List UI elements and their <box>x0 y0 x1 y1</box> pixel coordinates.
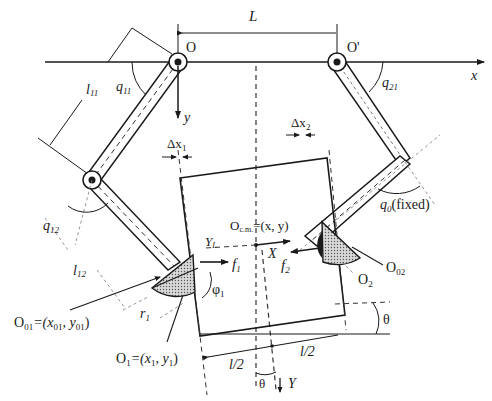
Y-label: Y <box>288 376 298 391</box>
object-X-axis <box>256 241 290 245</box>
robot-hand-diagram: x L q11 l11 q0(fixed) q21 <box>0 0 492 401</box>
left-finger-link-1 <box>86 58 184 184</box>
theta-arc-right <box>373 303 379 334</box>
object-y-axis-line <box>262 250 276 390</box>
grasped-object <box>178 150 346 395</box>
q21-label: q21 <box>382 75 398 92</box>
y-axis-label: y <box>182 110 191 125</box>
joint-O-prime <box>328 53 346 71</box>
l11-dimension-line <box>50 100 82 145</box>
O2-label: O2 <box>358 272 373 289</box>
q11-label: q11 <box>116 79 131 96</box>
L-label: L <box>248 8 257 24</box>
q11-arc <box>132 62 147 96</box>
O-label: O <box>186 40 196 55</box>
half-l-left-label: l/2 <box>229 357 244 372</box>
O01-label: O01=(x01, y01) <box>14 315 90 332</box>
force-f2-arrow <box>291 248 320 252</box>
phi1-label: φ1 <box>212 282 225 299</box>
dx2-label: Δx2 <box>291 115 310 132</box>
f2-label: f2 <box>281 257 290 275</box>
l12-label: l12 <box>73 263 86 279</box>
f1-label: f1 <box>232 256 241 274</box>
O02-label: O02 <box>386 260 405 277</box>
O-prime-label: O' <box>347 40 360 55</box>
L-dimension: L <box>178 8 337 62</box>
q0-label: q0(fixed) <box>380 197 430 214</box>
right-finger-link-2 <box>300 135 440 250</box>
x-axis-label: x <box>470 68 478 83</box>
x-axis: x <box>45 62 484 83</box>
l11-label: l11 <box>86 82 98 98</box>
O1-label: O1=(x1, y1) <box>116 351 178 368</box>
half-l-right-label: l/2 <box>300 344 315 359</box>
ocm-label: Oc.m.=(x, y) <box>230 218 289 234</box>
YL-label: YL <box>205 234 217 250</box>
dx1-label: Δx1 <box>167 136 186 153</box>
theta-right-label: θ <box>383 312 390 327</box>
q12-label: q12 <box>43 218 60 235</box>
X-label: X <box>267 246 277 261</box>
theta-bottom-label: θ <box>259 376 265 391</box>
q11-reference-line <box>108 28 132 62</box>
q21-arc <box>369 62 383 92</box>
left-finger-link-2 <box>86 176 180 270</box>
theta-arc-bottom <box>256 372 276 375</box>
q12-arc <box>68 203 108 212</box>
right-finger-link-1 <box>331 58 410 166</box>
right-fingertip <box>317 222 360 265</box>
r1-label: r1 <box>140 306 150 323</box>
phi1-arc <box>202 272 211 298</box>
